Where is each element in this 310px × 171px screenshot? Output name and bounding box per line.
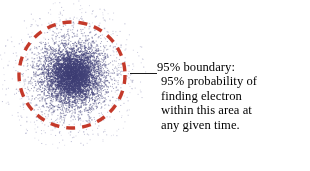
annotation-line-4: within this area at <box>157 103 307 117</box>
electron-cloud-figure: 95% boundary: 95% probability of finding… <box>0 0 310 171</box>
annotation-line-1: 95% boundary: <box>157 60 307 74</box>
annotation-line-3: finding electron <box>157 89 307 103</box>
annotation-line-5: any given time. <box>157 118 307 132</box>
boundary-annotation: 95% boundary: 95% probability of finding… <box>157 60 307 132</box>
annotation-line-2: 95% probability of <box>157 74 307 88</box>
